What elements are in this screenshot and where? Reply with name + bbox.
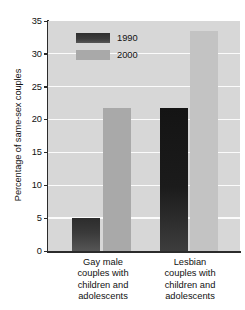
category-line: adolescents <box>55 291 151 302</box>
bar-gay-male-1990 <box>72 218 100 251</box>
legend-swatch-1990 <box>76 33 110 43</box>
bar-lesbian-2000 <box>190 31 218 251</box>
bar-lesbian-1990 <box>160 108 188 251</box>
legend-label-1990: 1990 <box>117 33 138 43</box>
category-line: children and <box>55 280 151 291</box>
category-line: couples with <box>142 268 238 279</box>
legend-item-1990: 1990 <box>76 31 138 45</box>
legend-label-2000: 2000 <box>117 50 138 60</box>
category-line: couples with <box>55 268 151 279</box>
x-category-label-gay-male: Gay male couples with children and adole… <box>55 257 151 303</box>
y-tick-label: 25 <box>14 82 42 92</box>
chart-legend: 1990 2000 <box>76 31 138 65</box>
bar-chart-figure: Percentage of same-sex couples 35 30 25 … <box>0 0 245 310</box>
y-tick-label: 20 <box>14 114 42 124</box>
y-tick-label: 15 <box>14 147 42 157</box>
y-tick-label: 5 <box>14 213 42 223</box>
legend-swatch-2000 <box>76 50 110 60</box>
y-tick-label: 30 <box>14 49 42 59</box>
category-line: Gay male <box>55 257 151 268</box>
category-line: Lesbian <box>142 257 238 268</box>
y-axis-title: Percentage of same-sex couples <box>13 35 23 235</box>
category-line: children and <box>142 280 238 291</box>
y-tick-label: 0 <box>14 246 42 256</box>
x-category-label-lesbian: Lesbian couples with children and adoles… <box>142 257 238 303</box>
bar-gay-male-2000 <box>103 108 131 251</box>
category-line: adolescents <box>142 291 238 302</box>
legend-item-2000: 2000 <box>76 48 138 62</box>
y-tick-label: 35 <box>14 16 42 26</box>
x-axis-line <box>47 251 241 253</box>
y-tick-label: 10 <box>14 180 42 190</box>
